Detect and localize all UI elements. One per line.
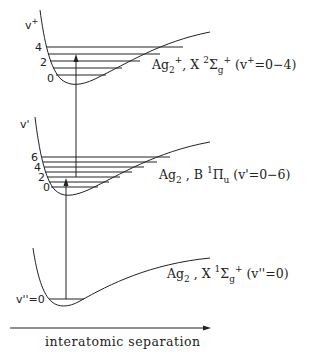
excited-term-sub: u [224, 175, 230, 185]
ground-term-letter: X [202, 266, 211, 281]
excited-separator: , [186, 167, 190, 182]
ground-term-sup: + [235, 264, 243, 274]
cation-axis-label-sup: + [32, 17, 39, 26]
cation-axis-label: v+ [25, 18, 38, 31]
ground-molecule: Ag [167, 266, 184, 281]
cation-term-sub: g [218, 65, 224, 75]
ground-term-symbol: Σ [220, 266, 229, 281]
cation-term-sup: + [224, 55, 232, 65]
excited-axis-label: v' [20, 119, 30, 130]
x-axis-label: interatomic separation [45, 334, 201, 349]
excited-level-label-0: 0 [43, 182, 50, 193]
cation-range-sup: + [247, 55, 255, 65]
cation-molecule: Ag [152, 57, 169, 72]
cation-term-letter: X [190, 57, 199, 72]
axis-arrowhead [203, 326, 211, 331]
cation-level-label-4: 4 [35, 42, 42, 53]
ground-state-label: Ag2 , X 1Σg+ (v''=0) [167, 265, 289, 284]
cation-level-label-2: 2 [40, 57, 47, 68]
cation-separator: , [182, 57, 186, 72]
ground-range: (v''=0) [246, 266, 288, 281]
cation-range-suffix: =0−4) [255, 57, 297, 72]
excited-molecule-sub: 2 [176, 175, 182, 185]
excited-range: (v'=0−6) [233, 167, 290, 182]
ground-molecule-sub: 2 [184, 274, 190, 284]
cation-state-label: Ag2+, X 2Σg+ (v+=0−4) [152, 56, 296, 75]
cation-range-prefix: (v [235, 57, 247, 72]
arrowhead-B-to-cation [74, 54, 79, 62]
ground-separator: , [194, 266, 198, 281]
cation-term-symbol: Σ [209, 57, 218, 72]
ground-level-label: v''=0 [16, 294, 45, 305]
excited-term-symbol: Π [213, 167, 224, 182]
excited-state-label: Ag2 , B 1Πu (v'=0−6) [159, 166, 290, 185]
cation-level-label-0: 0 [47, 73, 54, 84]
excited-term-letter: B [194, 167, 203, 182]
excited-molecule: Ag [159, 167, 176, 182]
ground-term-sub: g [229, 274, 235, 284]
cation-molecule-sub: 2 [169, 65, 175, 75]
